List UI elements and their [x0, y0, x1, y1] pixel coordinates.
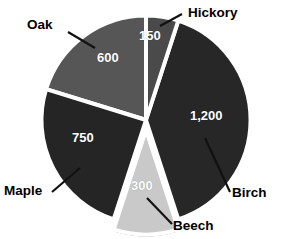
category-label-maple: Maple	[4, 183, 42, 198]
category-label-oak: Oak	[27, 17, 53, 32]
slice-value-birch: 1,200	[190, 108, 223, 123]
slice-value-hickory: 150	[139, 28, 161, 43]
slice-value-beech: 300	[131, 178, 153, 193]
category-label-birch: Birch	[232, 185, 267, 200]
pie-chart-figure: Trees 150 1,200 300 750 600 Oak Hickory …	[0, 0, 297, 239]
slice-value-oak: 600	[97, 50, 119, 65]
category-label-hickory: Hickory	[188, 5, 238, 20]
category-label-beech: Beech	[173, 218, 214, 233]
slice-value-maple: 750	[72, 130, 94, 145]
